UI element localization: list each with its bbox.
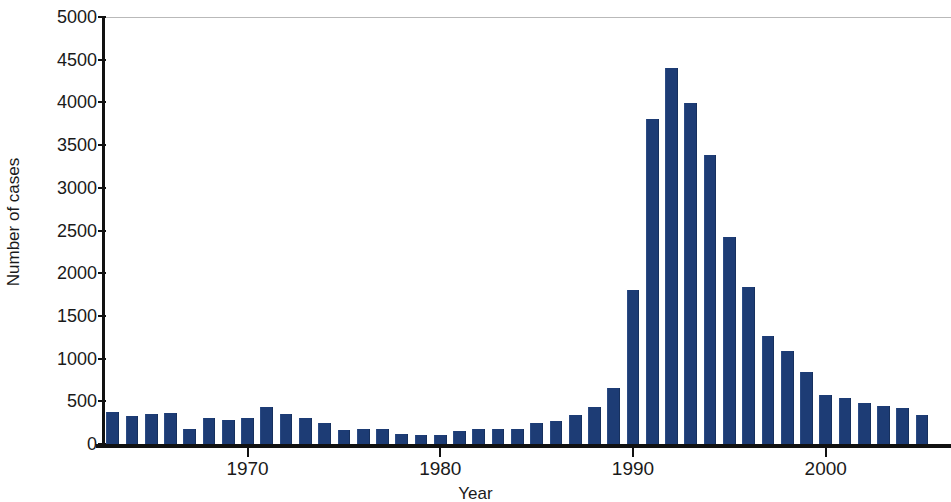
bar xyxy=(511,429,524,444)
bar xyxy=(530,423,543,444)
bar xyxy=(376,429,389,444)
x-axis-title: Year xyxy=(0,484,951,502)
bar xyxy=(492,429,505,444)
bar xyxy=(704,155,717,445)
bar xyxy=(222,420,235,444)
bar xyxy=(607,388,620,444)
bar xyxy=(260,407,273,444)
bar xyxy=(183,429,196,444)
y-axis-tick-label: 500 xyxy=(35,391,97,411)
bar xyxy=(858,403,871,444)
bar xyxy=(723,237,736,444)
bar xyxy=(241,418,254,444)
bar xyxy=(145,414,158,444)
bar xyxy=(627,290,640,444)
y-axis-title: Number of cases xyxy=(2,0,26,444)
y-axis-tick-label: 0 xyxy=(35,434,97,454)
bar xyxy=(646,119,659,444)
y-axis-tick-label: 2000 xyxy=(35,263,97,283)
x-axis-tick-label: 2000 xyxy=(781,458,871,480)
x-axis-tick-mark xyxy=(825,448,827,457)
y-axis-tick-label: 1000 xyxy=(35,349,97,369)
y-axis-tick: 2000 xyxy=(26,263,110,283)
bar xyxy=(357,429,370,444)
bar xyxy=(877,406,890,444)
x-axis-tick-label: 1970 xyxy=(203,458,293,480)
bar xyxy=(453,431,466,444)
x-axis-tick-mark xyxy=(247,448,249,457)
y-axis-tick: 1500 xyxy=(26,306,110,326)
bar xyxy=(472,429,485,444)
y-axis-tick-label: 3500 xyxy=(35,135,97,155)
y-axis-tick-label: 2500 xyxy=(35,221,97,241)
y-axis-tick: 3000 xyxy=(26,178,110,198)
bar xyxy=(203,418,216,444)
bar xyxy=(742,287,755,444)
bar xyxy=(819,395,832,444)
y-axis-tick: 1000 xyxy=(26,349,110,369)
bar xyxy=(164,413,177,444)
x-axis-tick-mark xyxy=(632,448,634,457)
bar xyxy=(434,435,447,444)
bar xyxy=(299,418,312,444)
bar xyxy=(106,412,119,444)
bar xyxy=(415,435,428,444)
bar xyxy=(569,415,582,444)
x-axis-tick-label: 1990 xyxy=(588,458,678,480)
bar xyxy=(338,430,351,444)
chart-figure: Number of cases 050010001500200025003000… xyxy=(0,0,951,502)
y-axis-tick-label: 1500 xyxy=(35,306,97,326)
bar xyxy=(684,103,697,444)
x-axis-line xyxy=(96,444,951,448)
y-axis-tick-label: 4500 xyxy=(35,50,97,70)
bar xyxy=(665,68,678,444)
bar xyxy=(839,398,852,444)
bar xyxy=(395,434,408,444)
bar xyxy=(280,414,293,444)
y-axis-tick-label: 3000 xyxy=(35,178,97,198)
y-axis-title-label: Number of cases xyxy=(4,158,24,287)
x-axis-tick-label: 1980 xyxy=(395,458,485,480)
plot-area xyxy=(103,17,951,444)
bar xyxy=(550,421,563,444)
bar xyxy=(126,416,139,444)
x-axis-tick-mark xyxy=(439,448,441,457)
bar xyxy=(896,408,909,444)
bar xyxy=(588,407,601,444)
y-axis-tick: 2500 xyxy=(26,221,110,241)
y-axis-tick: 4000 xyxy=(26,92,110,112)
y-axis-tick: 500 xyxy=(26,391,110,411)
bar xyxy=(800,372,813,444)
y-axis-tick: 5000 xyxy=(26,7,110,27)
y-axis-tick-label: 4000 xyxy=(35,92,97,112)
y-axis-tick-label: 5000 xyxy=(35,7,97,27)
bar xyxy=(781,351,794,444)
y-axis-tick: 3500 xyxy=(26,135,110,155)
bar xyxy=(916,415,929,444)
y-axis-tick: 4500 xyxy=(26,50,110,70)
bar xyxy=(318,423,331,444)
bar xyxy=(762,336,775,444)
